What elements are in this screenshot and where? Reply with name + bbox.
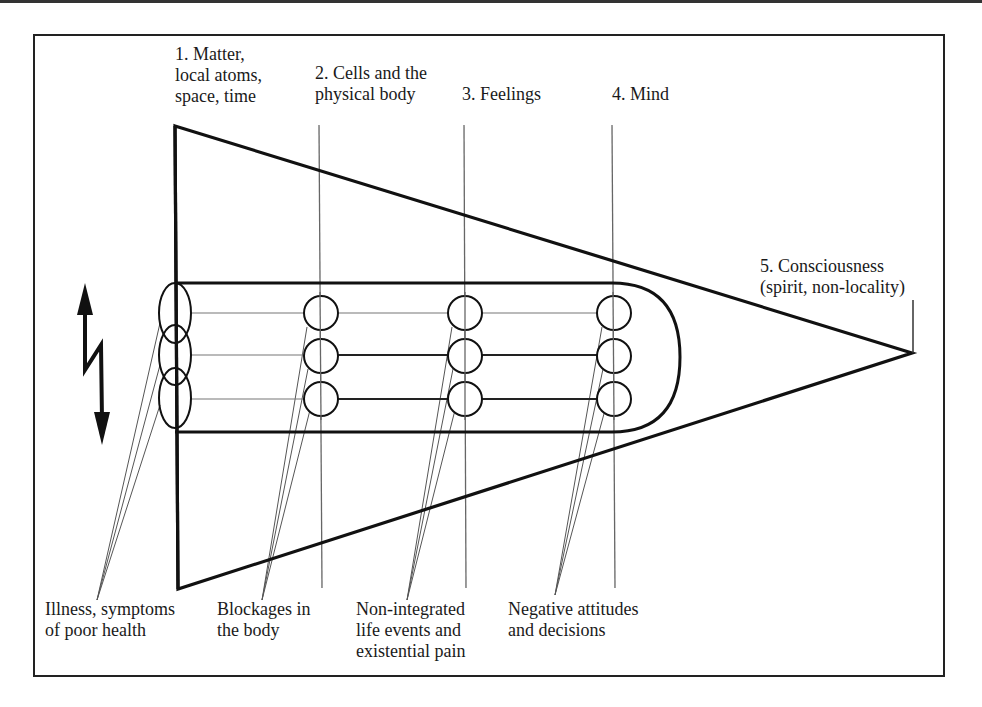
illness-label: Illness, symptoms of poor health bbox=[45, 599, 175, 641]
non-integrated-label: Non-integrated life events and existenti… bbox=[356, 599, 465, 662]
triangle-left-side bbox=[175, 126, 178, 589]
level-1-label: 1. Matter, local atoms, space, time bbox=[175, 44, 262, 107]
level-4-label: 4. Mind bbox=[612, 84, 669, 105]
leader-lines bbox=[97, 323, 605, 600]
level-2-label: 2. Cells and the physical body bbox=[315, 63, 427, 105]
level-3-label: 3. Feelings bbox=[462, 84, 541, 105]
negative-label: Negative attitudes and decisions bbox=[508, 599, 638, 641]
level-5-label: 5. Consciousness (spirit, non-locality) bbox=[760, 256, 905, 298]
blockages-label: Blockages in the body bbox=[217, 599, 310, 641]
consciousness-triangle bbox=[175, 126, 912, 589]
row-lines bbox=[191, 313, 597, 399]
double-headed-lightning-arrow-icon bbox=[77, 283, 110, 445]
